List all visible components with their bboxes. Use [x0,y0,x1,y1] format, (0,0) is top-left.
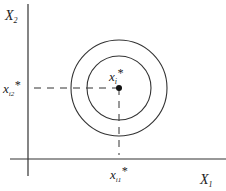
contour-diagram: X2 X1 xi* xi1* xi2* [0,0,226,191]
x-axis-label: X1 [199,172,213,189]
y-tick-label: xi2* [2,78,20,98]
x-tick-label: xi1* [109,164,127,184]
y-axis-label: X2 [4,8,18,25]
point-label: xi* [108,66,123,86]
